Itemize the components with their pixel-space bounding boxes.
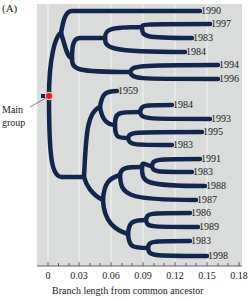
axis-title: Branch length from common ancestor xyxy=(52,285,204,296)
axis-tick-label: 0.03 xyxy=(70,270,88,281)
leaf-label: 1997 xyxy=(211,19,231,29)
leaf-label: 1993 xyxy=(211,114,231,124)
leaf-label: 1983 xyxy=(173,140,193,150)
axis-tick-label: 0.18 xyxy=(230,270,248,281)
leaf-label: 1998 xyxy=(208,251,228,261)
leaf-label: 1996 xyxy=(219,74,239,84)
leaf-label: 1983 xyxy=(193,33,213,43)
axis-tick-label: 0.06 xyxy=(102,270,120,281)
leaf-label: 1995 xyxy=(203,127,223,137)
root-node-dot xyxy=(46,93,52,99)
leaf-label: 1988 xyxy=(206,181,226,191)
leaf-label: 1983 xyxy=(191,236,211,246)
leaf-label: 1984 xyxy=(186,47,206,57)
axis-tick-label: 0.12 xyxy=(166,270,184,281)
leaf-label: 1987 xyxy=(197,195,217,205)
leaf-label: 1959 xyxy=(118,86,138,96)
axis-tick-label: 0.09 xyxy=(134,270,152,281)
leaf-label: 1984 xyxy=(173,100,193,110)
leaf-label: 1983 xyxy=(193,167,213,177)
axis-tick-label: 0 xyxy=(46,270,51,281)
main-group-callout: Main group xyxy=(2,103,25,129)
callout-line-1: Main xyxy=(2,103,25,116)
panel-label: (A) xyxy=(2,2,17,14)
axis-tick-label: 0.15 xyxy=(198,270,216,281)
leaf-label: 1990 xyxy=(201,6,221,16)
callout-line-2: group xyxy=(2,116,25,129)
leaf-label: 1991 xyxy=(201,154,221,164)
leaf-label: 1989 xyxy=(199,222,219,232)
leaf-label: 1994 xyxy=(219,60,239,70)
leaf-label: 1986 xyxy=(191,208,211,218)
